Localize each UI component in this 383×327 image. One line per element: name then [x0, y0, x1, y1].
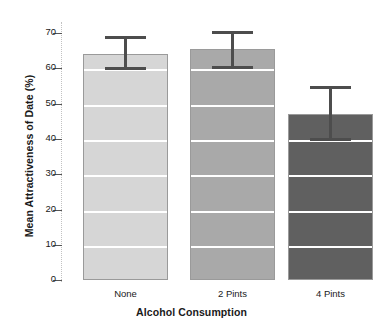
- gridline: [84, 246, 167, 248]
- bar-none: [83, 54, 168, 280]
- gridline: [84, 175, 167, 177]
- gridline: [289, 211, 372, 213]
- error-bar-2-pints: [212, 31, 253, 69]
- x-tick-label-none: None: [83, 288, 168, 299]
- gridline: [84, 211, 167, 213]
- gridline: [191, 175, 274, 177]
- error-bar-4-pints: [310, 86, 351, 141]
- gridline: [289, 246, 372, 248]
- y-tick-label-60: 60: [16, 62, 56, 72]
- y-tick-label-50: 50: [16, 98, 56, 108]
- gridline: [191, 140, 274, 142]
- bar-chart: Mean Attractiveness of Date (%) 70 60 50…: [0, 0, 383, 327]
- error-stem: [124, 36, 127, 70]
- gridline: [191, 211, 274, 213]
- gridline: [84, 105, 167, 107]
- y-tick-label-20: 20: [16, 204, 56, 214]
- y-tick-label-0: 0: [16, 274, 56, 284]
- y-tick-label-40: 40: [16, 133, 56, 143]
- error-cap-bottom: [105, 67, 146, 70]
- y-axis-line: [61, 22, 62, 282]
- y-tick-label-30: 30: [16, 168, 56, 178]
- x-tick-label-2-pints: 2 Pints: [190, 288, 275, 299]
- error-cap-bottom: [310, 138, 351, 141]
- error-stem: [231, 31, 234, 69]
- gridline: [191, 246, 274, 248]
- x-axis-title: Alcohol Consumption: [0, 306, 383, 318]
- bar-2-pints: [190, 49, 275, 280]
- gridline: [84, 140, 167, 142]
- gridline: [289, 175, 372, 177]
- error-cap-bottom: [212, 66, 253, 69]
- gridline: [191, 105, 274, 107]
- plot-area: 70 60 50 40 30 20 10 0: [0, 0, 383, 327]
- x-tick-label-4-pints: 4 Pints: [288, 288, 373, 299]
- gridline: [191, 69, 274, 71]
- error-bar-none: [105, 36, 146, 70]
- y-tick-label-70: 70: [16, 27, 56, 37]
- y-tick-label-10: 10: [16, 239, 56, 249]
- error-stem: [329, 86, 332, 141]
